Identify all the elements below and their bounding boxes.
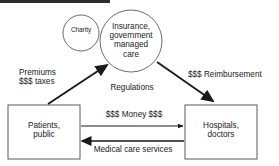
node-charity-circle bbox=[63, 15, 99, 51]
node-patients-box bbox=[8, 105, 80, 159]
diagram-graphics bbox=[0, 0, 279, 166]
node-insurance-circle bbox=[100, 10, 162, 72]
diagram-canvas: Charity Insurance, government managed ca… bbox=[0, 0, 279, 166]
edge-premiums-arrow bbox=[48, 65, 107, 104]
edge-reimbursement-arrow bbox=[157, 62, 213, 101]
node-hospitals-box bbox=[185, 105, 257, 159]
